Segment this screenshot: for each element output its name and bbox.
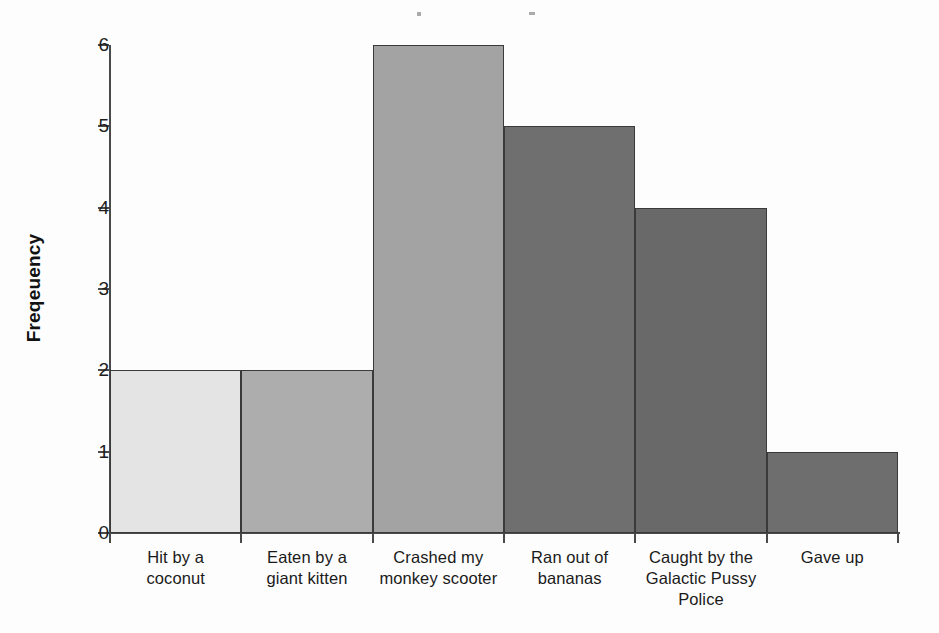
x-axis-tick-5 — [766, 532, 768, 543]
x-axis-tick-0 — [109, 532, 111, 543]
x-axis-label-0-line-0: Hit by a — [104, 547, 247, 568]
x-axis-label-0: Hit by acoconut — [104, 547, 247, 589]
x-axis-label-1: Eaten by agiant kitten — [235, 547, 378, 589]
y-axis-tick-label-4: 4 — [81, 198, 109, 217]
x-axis-label-3-line-0: Ran out of — [498, 547, 641, 568]
bar-4 — [635, 208, 766, 533]
scan-artifact-right — [529, 12, 535, 15]
x-axis-label-1-line-0: Eaten by a — [235, 547, 378, 568]
x-axis-label-5-line-0: Gave up — [761, 547, 904, 568]
y-axis-tick-label-2: 2 — [81, 360, 109, 379]
x-axis-label-2: Crashed mymonkey scooter — [367, 547, 510, 589]
bar-2 — [373, 45, 504, 533]
y-axis-title: Freqeuency — [23, 208, 45, 368]
bar-5 — [767, 452, 898, 533]
x-axis-label-3-line-1: bananas — [498, 568, 641, 589]
x-axis-tick-2 — [372, 532, 374, 543]
x-axis-label-4-line-1: Galactic Pussy — [629, 568, 772, 589]
x-axis-label-4: Caught by theGalactic PussyPolice — [629, 547, 772, 610]
x-axis-tick-4 — [634, 532, 636, 543]
x-axis-tick-3 — [503, 532, 505, 543]
x-axis-tick-1 — [240, 532, 242, 543]
y-axis-tick-label-3: 3 — [81, 279, 109, 298]
bar-3 — [504, 126, 635, 533]
x-axis-label-2-line-1: monkey scooter — [367, 568, 510, 589]
y-axis-tick-label-5: 5 — [81, 116, 109, 135]
y-axis-tick-label-0: 0 — [81, 523, 109, 542]
x-axis-label-2-line-0: Crashed my — [367, 547, 510, 568]
bar-0 — [110, 370, 241, 533]
x-axis-label-5: Gave up — [761, 547, 904, 568]
y-axis-tick-label-1: 1 — [81, 442, 109, 461]
bar-1 — [241, 370, 372, 533]
x-axis-label-1-line-1: giant kitten — [235, 568, 378, 589]
x-axis-label-0-line-1: coconut — [104, 568, 247, 589]
y-axis-tick-label-6: 6 — [81, 35, 109, 54]
x-axis-label-4-line-0: Caught by the — [629, 547, 772, 568]
bar-chart: Freqeuency 0123456 Hit by acoconutEaten … — [0, 0, 939, 633]
x-axis-label-3: Ran out ofbananas — [498, 547, 641, 589]
scan-artifact-left — [417, 12, 421, 16]
x-axis-label-4-line-2: Police — [629, 589, 772, 610]
x-axis-tick-6 — [897, 532, 899, 543]
